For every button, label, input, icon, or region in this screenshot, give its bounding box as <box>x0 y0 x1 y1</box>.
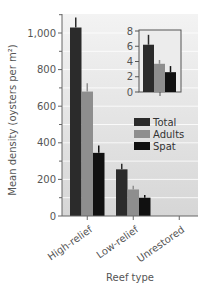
bar-adults <box>82 92 94 216</box>
inset-y-tick-label: 2 <box>127 71 133 82</box>
y-tick-label: 1,000 <box>27 28 56 39</box>
x-tick-label: High-relief <box>46 223 95 262</box>
y-ticks: 02004006008001,000 <box>27 15 62 222</box>
bar-spat <box>93 153 105 216</box>
y-tick-label: 400 <box>37 137 56 148</box>
y-tick-label: 600 <box>37 101 56 112</box>
y-axis-title: Mean density (oysters per m²) <box>7 44 18 196</box>
inset-y-tick-label: 4 <box>127 56 133 67</box>
x-axis-title: Reef type <box>106 272 154 283</box>
inset-y-tick-label: 6 <box>127 41 133 52</box>
legend-label-spat: Spat <box>153 141 176 152</box>
y-tick-label: 200 <box>37 174 56 185</box>
legend-swatch-adults <box>134 130 150 138</box>
y-tick-label: 0 <box>50 211 56 222</box>
y-tick-label: 800 <box>37 64 56 75</box>
bar-total <box>70 28 82 216</box>
legend-swatch-total <box>134 118 150 126</box>
bar-chart: 02004006008001,000 High-reliefLow-relief… <box>0 0 204 296</box>
bar-spat <box>139 198 151 216</box>
inset-y-tick-label: 8 <box>127 26 133 37</box>
x-tick-label: Unrestored <box>135 224 187 265</box>
x-ticks: High-reliefLow-reliefUnrestored <box>46 216 187 264</box>
legend-swatch-spat <box>134 142 150 150</box>
inset-y-tick-label: 0 <box>127 87 133 98</box>
inset-bar-total <box>143 45 154 92</box>
legend-label-adults: Adults <box>153 129 184 140</box>
legend-label-total: Total <box>152 117 176 128</box>
inset-bar-spat <box>165 72 176 92</box>
bar-total <box>116 169 128 216</box>
inset-bar-adults <box>154 64 165 92</box>
bar-adults <box>128 189 140 216</box>
